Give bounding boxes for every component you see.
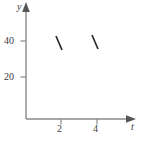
chart-canvas [0,0,142,142]
chart-figure: 40 20 2 4 y t [0,0,142,142]
y-tick-label-20: 20 [4,72,14,82]
x-axis-label: t [131,122,134,132]
data-segment-2 [92,35,98,49]
y-axis-arrowhead [22,2,30,12]
y-tick-label-40: 40 [4,36,14,46]
x-tick-label-4: 4 [93,124,98,134]
y-axis-label: y [17,2,21,12]
data-segment-1 [56,36,62,50]
x-tick-label-2: 2 [57,124,62,134]
